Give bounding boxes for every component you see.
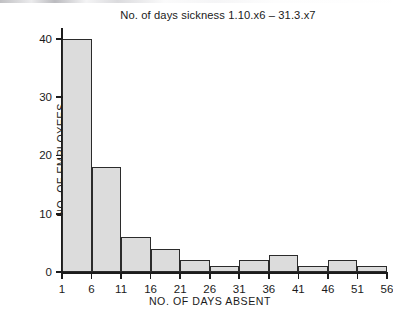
x-tick-label: 51	[351, 283, 364, 295]
y-tick	[56, 38, 63, 40]
bar	[328, 260, 358, 272]
x-tick	[268, 272, 270, 279]
bar	[269, 255, 299, 272]
x-tick-label: 16	[144, 283, 157, 295]
x-tick-label: 21	[174, 283, 187, 295]
x-tick	[120, 272, 122, 279]
chart-title-text: No. of days sickness 1.10.x6 – 31.3.x7	[76, 9, 315, 21]
y-tick	[56, 155, 63, 157]
x-tick-label: 46	[322, 283, 335, 295]
x-tick-label: 6	[88, 283, 94, 295]
bar	[210, 266, 240, 272]
chart-title: No. of days sickness 1.10.x6 – 31.3.x7	[0, 9, 392, 21]
y-tick-label: 30	[39, 91, 52, 103]
x-axis-title-text: NO. OF DAYS ABSENT	[121, 295, 271, 307]
x-tick-label: 56	[381, 283, 393, 295]
x-tick	[179, 272, 181, 279]
x-tick-label: 31	[233, 283, 246, 295]
y-tick-label: 20	[39, 149, 52, 161]
x-tick-label: 11	[115, 283, 127, 295]
bar	[239, 260, 269, 272]
x-tick	[298, 272, 300, 279]
x-tick	[61, 272, 63, 279]
bar	[298, 266, 328, 272]
y-tick-label: 40	[39, 33, 52, 45]
x-axis-title: NO. OF DAYS ABSENT	[0, 295, 392, 307]
x-tick-label: 36	[262, 283, 275, 295]
plot-area: 010203040 1611162126313641465156	[62, 33, 387, 272]
bar-series	[62, 33, 387, 272]
scan-artifact	[0, 0, 392, 3]
bar	[92, 167, 122, 272]
bar	[357, 266, 387, 272]
x-tick	[327, 272, 329, 279]
x-tick-label: 41	[292, 283, 305, 295]
bar	[180, 260, 210, 272]
bar	[121, 237, 151, 272]
y-tick	[56, 213, 63, 215]
bar	[151, 249, 181, 272]
x-tick	[91, 272, 93, 279]
x-tick	[150, 272, 152, 279]
x-tick-label: 1	[59, 283, 65, 295]
bar	[62, 39, 92, 272]
y-tick-label: 0	[46, 266, 52, 278]
x-tick	[209, 272, 211, 279]
y-tick	[56, 96, 63, 98]
x-axis-line	[61, 272, 387, 274]
x-tick	[357, 272, 359, 279]
x-tick-label: 26	[203, 283, 216, 295]
x-tick	[386, 272, 388, 279]
x-tick	[238, 272, 240, 279]
y-tick-label: 10	[39, 208, 52, 220]
